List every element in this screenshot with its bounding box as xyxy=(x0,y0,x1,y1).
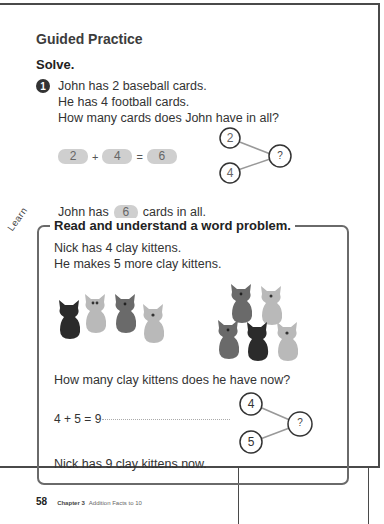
learn-line-2: He makes 5 more clay kittens. xyxy=(54,257,221,272)
learn-title: Read and understand a word problem. xyxy=(50,218,295,233)
learn-conclusion: Nick has 9 clay kittens now. xyxy=(54,457,207,472)
chapter-label: Chapter 3 xyxy=(57,500,85,506)
kitten-icon xyxy=(56,298,82,340)
learn-question: How many clay kittens does he have now? xyxy=(54,373,290,388)
kitten-icon xyxy=(215,318,241,360)
problem-line-3: How many cards does John have in all? xyxy=(58,111,279,126)
section-title: Guided Practice xyxy=(36,31,143,47)
plus-sign: + xyxy=(92,151,98,163)
instruction: Solve. xyxy=(36,57,74,72)
bond-whole: ? xyxy=(275,150,285,161)
kitten-icon xyxy=(112,292,138,334)
problem-number-badge: 1 xyxy=(36,79,50,93)
bond-part-2: 4 xyxy=(225,166,235,180)
problem-line-1: John has 2 baseball cards. xyxy=(58,79,207,94)
equation-row: 2 + 4 = 6 xyxy=(58,149,177,164)
bond2-part-2: 5 xyxy=(246,435,256,449)
dotted-leader xyxy=(102,419,230,420)
addend-box-2[interactable]: 4 xyxy=(102,149,132,164)
bond2-part-1: 4 xyxy=(246,397,256,411)
page-number: 58 xyxy=(36,496,47,507)
learn-line-1: Nick has 4 clay kittens. xyxy=(54,241,181,256)
chapter-title: Addition Facts to 10 xyxy=(89,500,142,506)
addend-box-1[interactable]: 2 xyxy=(58,149,88,164)
kitten-icon xyxy=(82,292,108,334)
sum-box[interactable]: 6 xyxy=(147,149,177,164)
bond2-whole: ? xyxy=(295,417,305,428)
kitten-icon xyxy=(274,320,300,362)
kitten-icon xyxy=(244,320,270,362)
problem-line-2: He has 4 football cards. xyxy=(58,95,189,110)
page-footer: 58 Chapter 3 Addition Facts to 10 xyxy=(36,496,142,507)
learn-equation: 4 + 5 = 9 xyxy=(54,412,101,427)
equals-sign: = xyxy=(136,151,142,163)
bond-part-1: 2 xyxy=(225,131,235,145)
kitten-icon xyxy=(140,302,166,344)
